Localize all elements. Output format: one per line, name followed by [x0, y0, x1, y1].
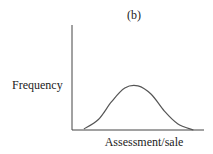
chart: (b) Frequency Assessment/sale — [0, 0, 213, 154]
y-axis-label: Frequency — [12, 78, 63, 92]
x-axis-label: Assessment/sale — [105, 135, 184, 149]
series-line-distribution — [84, 85, 193, 130]
chart-title: (b) — [127, 8, 141, 22]
